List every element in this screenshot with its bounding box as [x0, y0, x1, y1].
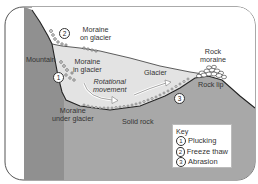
- key-item-plucking: 1 Plucking: [176, 136, 228, 147]
- label-moraine-on-glacier-line2: on glacier: [80, 34, 111, 42]
- label-rock-lip: Rock lip: [198, 81, 224, 89]
- key-label-abrasion: Abrasion: [188, 157, 218, 168]
- key-number-1: 1: [176, 136, 186, 146]
- label-rock-moraine-line2: moraine: [200, 56, 226, 64]
- key-item-abrasion: 3 Abrasion: [176, 157, 228, 168]
- key-item-freeze-thaw: 2 Freeze thaw: [176, 147, 228, 158]
- marker-2-freeze-thaw: 2: [59, 28, 70, 39]
- label-moraine-in-glacier-line2: in glacier: [73, 66, 102, 74]
- label-mountain: Mountain: [26, 56, 56, 64]
- label-moraine-on-glacier: Moraine on glacier: [80, 26, 111, 41]
- marker-1-plucking: 1: [53, 72, 64, 83]
- label-glacier: Glacier: [144, 69, 167, 77]
- key-legend: Key 1 Plucking 2 Freeze thaw 3 Abrasion: [172, 124, 232, 168]
- label-moraine-under-line2: under glacier: [52, 115, 94, 123]
- marker-3-abrasion: 3: [174, 93, 185, 104]
- label-moraine-in-glacier: Moraine in glacier: [73, 58, 102, 73]
- key-number-2: 2: [176, 147, 185, 157]
- label-rotational-movement: Rotational movement: [93, 78, 127, 93]
- key-number-3: 3: [176, 157, 186, 167]
- label-rock-moraine: Rock moraine: [200, 48, 226, 63]
- key-label-freeze-thaw: Freeze thaw: [187, 147, 228, 158]
- key-label-plucking: Plucking: [188, 136, 216, 147]
- label-solid-rock: Solid rock: [122, 118, 154, 126]
- label-rotational-line2: movement: [93, 86, 127, 94]
- label-moraine-under-glacier: Moraine under glacier: [52, 107, 94, 122]
- key-title: Key: [176, 127, 228, 136]
